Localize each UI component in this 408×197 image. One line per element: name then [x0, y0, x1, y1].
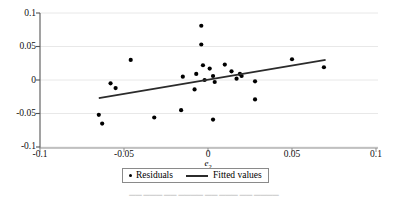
y-axis: [36, 13, 40, 148]
scatter-point: [253, 79, 257, 83]
scatter-point: [179, 108, 183, 112]
residuals-points: [97, 24, 326, 126]
x-tick-label: 0.05: [272, 150, 312, 160]
scatter-point: [290, 57, 294, 61]
x-tick-label: 0.1: [356, 150, 396, 160]
scatter-point: [229, 69, 233, 73]
scatter-point: [211, 117, 215, 121]
y-tick-label: 0: [2, 76, 36, 86]
legend-item-residuals[interactable]: Residuals: [129, 171, 173, 181]
legend-item-fitted-values[interactable]: Fitted values: [186, 171, 262, 181]
legend-label-fitted-values: Fitted values: [213, 171, 262, 181]
bottom-caption-text: ▁▁ ▁▁▁ ▁▁ ▁▁▁▁ ▁▁ ▁▁▁ ▁▁ ▁▁▁▁: [0, 190, 408, 196]
scatter-point: [199, 42, 203, 46]
scatter-point: [108, 81, 112, 85]
scatter-point: [192, 87, 196, 91]
x-tick-label: -0.1: [20, 150, 60, 160]
scatter-point: [194, 72, 198, 76]
scatter-point: [322, 65, 326, 69]
scatter-point: [223, 62, 227, 66]
scatter-point: [152, 115, 156, 119]
scatter-point: [253, 97, 257, 101]
scatter-point: [211, 74, 215, 78]
fitted-values-line: [99, 60, 326, 98]
scatter-point: [201, 63, 205, 67]
y-tick-label: 0.05: [2, 42, 36, 52]
legend-label-residuals: Residuals: [136, 171, 173, 181]
scatter-point: [208, 67, 212, 71]
residuals-scatter-figure: 0.1 0.05 0 -0.05 -0.1 -0.1 -0.05 0 0.05 …: [0, 0, 408, 197]
scatter-point: [100, 121, 104, 125]
scatter-point: [213, 80, 217, 84]
scatter-point: [181, 75, 185, 79]
fit-line-icon: [186, 175, 208, 177]
y-tick-label: -0.05: [2, 109, 36, 119]
scatter-point: [199, 24, 203, 28]
scatter-point: [234, 77, 238, 81]
scatter-point: [97, 113, 101, 117]
scatter-point: [114, 86, 118, 90]
bottom-caption: ▁▁ ▁▁▁ ▁▁ ▁▁▁▁ ▁▁ ▁▁▁ ▁▁ ▁▁▁▁: [0, 190, 408, 197]
legend: Residuals Fitted values: [122, 168, 269, 183]
scatter-point: [129, 58, 133, 62]
y-tick-label: 0.1: [2, 9, 36, 19]
fitted-line-path: [99, 60, 326, 98]
scatter-dot-icon: [129, 174, 132, 177]
x-tick-label: -0.05: [104, 150, 144, 160]
